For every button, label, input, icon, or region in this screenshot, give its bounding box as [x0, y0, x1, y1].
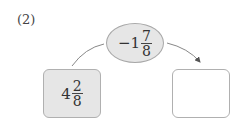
operator-numerator: 7: [141, 29, 152, 44]
start-fraction: 2 8: [72, 79, 83, 108]
operator-sign: −: [118, 34, 131, 52]
operator-whole: 1: [131, 34, 141, 52]
operator-fraction: 7 8: [141, 29, 152, 58]
operator-mixed-number: − 1 7 8: [118, 29, 152, 58]
connector-left: [72, 44, 104, 66]
start-value-box: 4 2 8: [43, 69, 101, 118]
connector-arrow-right: [167, 43, 200, 62]
answer-box[interactable]: [172, 69, 230, 118]
operator-denominator: 8: [142, 44, 151, 58]
start-whole: 4: [61, 85, 71, 103]
operator-ellipse: − 1 7 8: [106, 23, 164, 63]
start-numerator: 2: [72, 79, 83, 94]
start-denominator: 8: [73, 94, 82, 108]
start-mixed-number: 4 2 8: [61, 79, 82, 108]
